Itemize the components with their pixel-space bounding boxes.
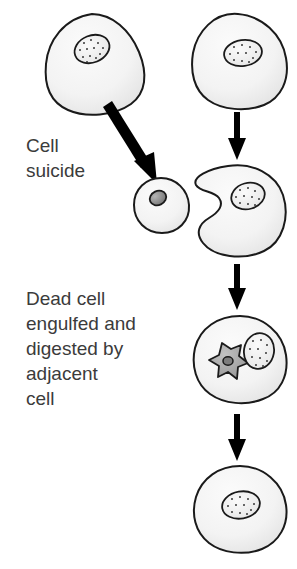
arrow-down-3 [228,414,246,461]
apoptosis-diagram: Cell suicide Dead cell engulfed and dige… [0,0,297,569]
healthy-cell-left [46,14,145,115]
arrow-diagonal-suicide [103,101,157,184]
caption-cell-suicide: Cell suicide [26,133,85,183]
phagocyte-reaching [195,165,285,256]
healthy-cell-right [192,14,287,109]
arrow-down-2 [228,264,246,310]
arrow-down-1 [228,112,246,160]
restored-cell [194,466,287,553]
apoptotic-cell [134,178,189,233]
caption-dead-cell-engulfed: Dead cell engulfed and digested by adjac… [26,286,136,411]
diagram-canvas [0,0,297,569]
phagocyte-digesting [194,316,287,403]
